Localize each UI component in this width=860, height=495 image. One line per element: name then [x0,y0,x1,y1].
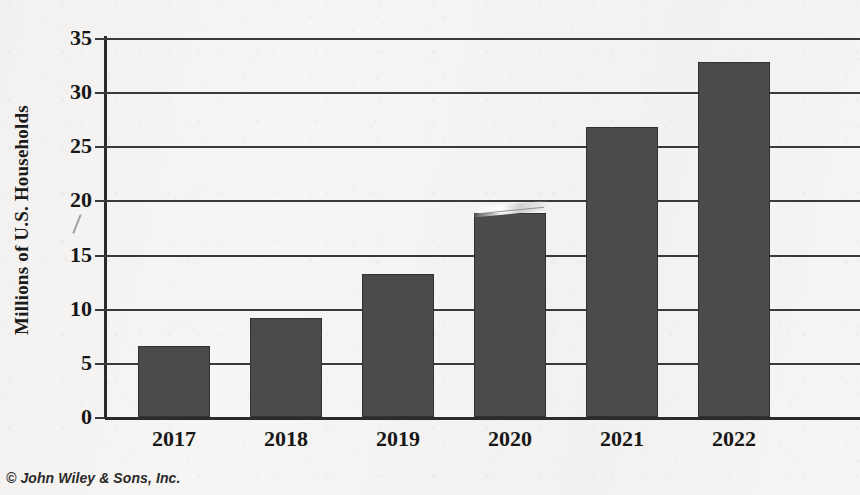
y-axis-tick [95,38,105,40]
y-axis-tick [95,92,105,94]
y-axis-tick-labels: 05101520253035 [46,38,92,417]
y-axis-tick [95,363,105,365]
y-axis-tick-label: 20 [46,189,92,211]
y-axis-tick-label: 10 [46,298,92,320]
x-axis-tick-labels: 201720182019202020212022 [105,428,860,464]
y-axis-tick [95,200,105,202]
y-axis-tick-label: 30 [46,81,92,103]
bar [138,346,210,417]
y-axis-title-text: Millions of U.S. Households [11,105,33,335]
y-axis-tick [95,309,105,311]
y-axis-title: Millions of U.S. Households [0,0,44,440]
x-axis-tick-label: 2019 [358,428,438,450]
x-axis-tick-label: 2017 [134,428,214,450]
bar [362,274,434,417]
x-axis-tick-label: 2022 [694,428,774,450]
y-axis-tick [95,146,105,148]
bar-chart-figure: Millions of U.S. Households 051015202530… [0,0,860,495]
y-axis-tick [95,255,105,257]
bar [250,318,322,417]
copyright-credit: © John Wiley & Sons, Inc. [6,470,181,486]
x-axis-tick-label: 2021 [582,428,662,450]
bar [474,213,546,417]
bar [586,127,658,417]
plot-area [105,38,860,417]
gridline [105,417,860,420]
y-axis-tick-label: 5 [46,352,92,374]
x-axis-tick-label: 2020 [470,428,550,450]
y-axis-tick-label: 35 [46,27,92,49]
y-axis-tick-label: 15 [46,244,92,266]
gridline [105,38,860,40]
y-axis-tick-label: 0 [46,406,92,428]
x-axis-tick-label: 2018 [246,428,326,450]
y-axis-tick [95,417,105,419]
y-axis-tick-label: 25 [46,135,92,157]
bar [698,62,770,417]
